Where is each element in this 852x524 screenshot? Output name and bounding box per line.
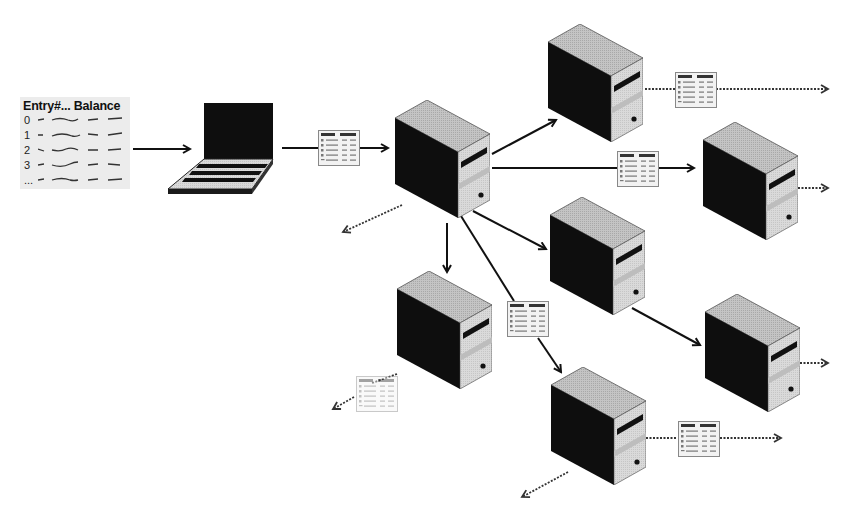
- ledger-card-center-to-bottom: [508, 302, 549, 337]
- scribble-icon: [38, 160, 128, 170]
- scribble-icon: [38, 130, 128, 140]
- ledger-row-index: 2: [24, 144, 30, 156]
- ledger-card-top-outgoing: [676, 73, 717, 108]
- ledger-card-bottom-outgoing: [679, 422, 720, 457]
- ledger-row: 2: [20, 143, 130, 158]
- server-right-lower-icon: [705, 294, 800, 412]
- scribble-icon: [38, 115, 128, 125]
- edge-card-to-bottom: [538, 338, 561, 372]
- ledger-row-index: 3: [24, 159, 30, 171]
- network-diagram: [0, 0, 852, 524]
- ledger-row: ...: [20, 173, 130, 188]
- ledger-row-index: 1: [24, 129, 30, 141]
- server-lower-left-icon: [397, 271, 492, 389]
- server-middle-icon: [550, 197, 645, 315]
- scribble-icon: [38, 175, 128, 185]
- ledger-header: Entry#... Balance: [20, 97, 130, 113]
- ledger-row: 3: [20, 158, 130, 173]
- edge-middle-to-right-lower: [632, 308, 700, 345]
- ledger-row-index: 0: [24, 114, 30, 126]
- server-right-upper-icon: [703, 122, 798, 240]
- server-bottom-icon: [551, 367, 646, 485]
- edge-bottom-offscreen-left: [522, 472, 568, 497]
- server-center-icon: [395, 100, 490, 218]
- ledger-row: 1: [20, 128, 130, 143]
- edge-lower-left-card-offscreen: [333, 397, 354, 409]
- edge-center-to-top: [492, 120, 556, 154]
- edge-center-offscreen: [343, 205, 402, 232]
- source-ledger-table: Entry#... Balance 0 1 2 3 ...: [20, 97, 130, 189]
- ledger-row-index: ...: [24, 174, 33, 186]
- edge-center-to-middle: [473, 211, 546, 249]
- ledger-row: 0: [20, 113, 130, 128]
- server-top-icon: [548, 24, 643, 142]
- ledger-card-lower-left-faded: [357, 377, 398, 412]
- ledger-card-laptop-to-center: [319, 131, 360, 166]
- scribble-icon: [38, 145, 128, 155]
- ledger-card-center-to-right-upper: [618, 152, 659, 187]
